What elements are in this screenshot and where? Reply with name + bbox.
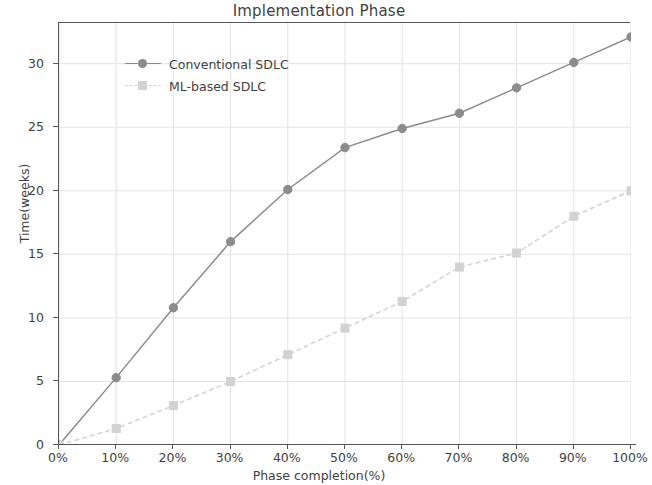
x-tick-mark xyxy=(344,444,345,449)
data-point-square xyxy=(513,249,521,257)
data-point-circle xyxy=(398,124,406,132)
x-tick-mark xyxy=(573,444,574,449)
x-tick-label: 30% xyxy=(200,450,260,465)
data-point-circle xyxy=(169,304,177,312)
x-tick-mark xyxy=(230,444,231,449)
legend-marker-circle-icon xyxy=(138,59,147,68)
data-point-square xyxy=(112,424,120,432)
data-point-circle xyxy=(455,109,463,117)
legend-item-conventional: Conventional SDLC xyxy=(125,53,315,75)
data-point-square xyxy=(341,324,349,332)
legend-label-conventional: Conventional SDLC xyxy=(161,57,289,72)
data-point-square xyxy=(169,402,177,410)
data-point-square xyxy=(227,377,235,385)
x-tick-label: 90% xyxy=(543,450,603,465)
x-tick-mark xyxy=(401,444,402,449)
data-point-square xyxy=(284,351,292,359)
x-tick-label: 10% xyxy=(85,450,145,465)
x-axis-line xyxy=(58,444,636,445)
chart-title: Implementation Phase xyxy=(0,2,638,20)
data-point-circle xyxy=(226,237,234,245)
data-point-circle xyxy=(112,373,120,381)
y-tick-label: 5 xyxy=(10,373,44,388)
legend-sample-ml-based xyxy=(125,79,161,93)
data-point-circle xyxy=(341,143,349,151)
x-tick-mark xyxy=(458,444,459,449)
data-point-square xyxy=(627,187,631,195)
x-tick-label: 20% xyxy=(142,450,202,465)
x-tick-label: 40% xyxy=(257,450,317,465)
y-tick-label: 30 xyxy=(10,55,44,70)
data-point-circle xyxy=(512,84,520,92)
x-tick-label: 100% xyxy=(600,450,652,465)
x-tick-mark xyxy=(115,444,116,449)
y-tick-mark xyxy=(53,317,58,318)
x-tick-mark xyxy=(630,444,631,449)
data-point-square xyxy=(570,212,578,220)
y-axis-title: Time(weeks) xyxy=(17,134,32,274)
x-tick-label: 50% xyxy=(314,450,374,465)
plot-area: Conventional SDLC ML-based SDLC xyxy=(58,22,630,444)
chart-legend: Conventional SDLC ML-based SDLC xyxy=(125,53,315,97)
data-point-circle xyxy=(570,58,578,66)
y-tick-mark xyxy=(53,380,58,381)
data-point-square xyxy=(398,297,406,305)
x-tick-mark xyxy=(172,444,173,449)
x-tick-label: 0% xyxy=(28,450,88,465)
data-point-circle xyxy=(284,185,292,193)
y-tick-label: 25 xyxy=(10,119,44,134)
data-point-square xyxy=(455,263,463,271)
y-tick-mark xyxy=(53,63,58,64)
legend-marker-square-icon xyxy=(138,81,147,90)
x-tick-label: 80% xyxy=(486,450,546,465)
y-tick-mark xyxy=(53,126,58,127)
x-tick-mark xyxy=(287,444,288,449)
y-tick-label: 10 xyxy=(10,309,44,324)
legend-label-ml-based: ML-based SDLC xyxy=(161,79,266,94)
x-tick-label: 60% xyxy=(371,450,431,465)
y-tick-mark xyxy=(53,253,58,254)
x-axis-title: Phase completion(%) xyxy=(0,468,638,483)
x-tick-mark xyxy=(58,444,59,449)
legend-sample-conventional xyxy=(125,57,161,71)
x-tick-label: 70% xyxy=(428,450,488,465)
y-tick-mark xyxy=(53,190,58,191)
data-point-circle xyxy=(627,33,631,41)
legend-item-ml-based: ML-based SDLC xyxy=(125,75,315,97)
x-tick-mark xyxy=(516,444,517,449)
